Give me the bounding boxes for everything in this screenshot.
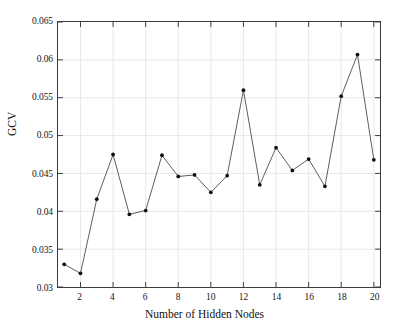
- x-tick-label: 16: [304, 292, 314, 302]
- data-point-marker: [339, 94, 343, 98]
- x-tick-label: 14: [272, 292, 282, 302]
- data-series-line: [64, 55, 374, 274]
- data-point-marker: [274, 146, 278, 150]
- y-tick-label: 0.035: [32, 245, 53, 255]
- x-tick-label: 8: [176, 292, 181, 302]
- plot-area: [57, 21, 381, 288]
- x-tick-label: 4: [110, 292, 115, 302]
- data-point-marker: [372, 158, 376, 162]
- x-tick-label: 2: [77, 292, 82, 302]
- x-axis-title: Number of Hidden Nodes: [0, 308, 409, 320]
- y-axis-title: GCV: [6, 112, 18, 136]
- data-point-marker: [62, 262, 66, 266]
- data-point-marker: [127, 212, 131, 216]
- data-point-marker: [111, 153, 115, 157]
- y-tick-label: 0.06: [37, 54, 53, 64]
- data-point-marker: [209, 190, 213, 194]
- gcv-line-chart-figure: 0.030.0350.040.0450.050.0550.060.065 246…: [0, 0, 409, 331]
- x-tick-label: 18: [337, 292, 347, 302]
- series-layer: [58, 22, 380, 287]
- x-tick-label: 10: [206, 292, 216, 302]
- data-point-marker: [176, 175, 180, 179]
- data-point-marker: [160, 153, 164, 157]
- data-point-marker: [144, 209, 148, 213]
- data-point-marker: [79, 271, 83, 275]
- x-tick-label: 12: [239, 292, 249, 302]
- data-point-marker: [290, 169, 294, 173]
- data-point-marker: [307, 157, 311, 161]
- x-tick-label: 6: [143, 292, 148, 302]
- data-point-marker: [242, 88, 246, 92]
- data-point-marker: [258, 183, 262, 187]
- y-tick-label: 0.045: [32, 169, 53, 179]
- y-tick-label: 0.055: [32, 92, 53, 102]
- data-point-marker: [323, 184, 327, 188]
- data-point-marker: [193, 173, 197, 177]
- x-tick-label: 20: [370, 292, 380, 302]
- y-tick-label: 0.065: [32, 16, 53, 26]
- y-tick-label: 0.05: [37, 130, 53, 140]
- data-point-marker: [356, 53, 360, 57]
- data-point-marker: [225, 174, 229, 178]
- y-tick-label: 0.04: [37, 207, 53, 217]
- y-tick-label: 0.03: [37, 283, 53, 293]
- data-point-marker: [95, 197, 99, 201]
